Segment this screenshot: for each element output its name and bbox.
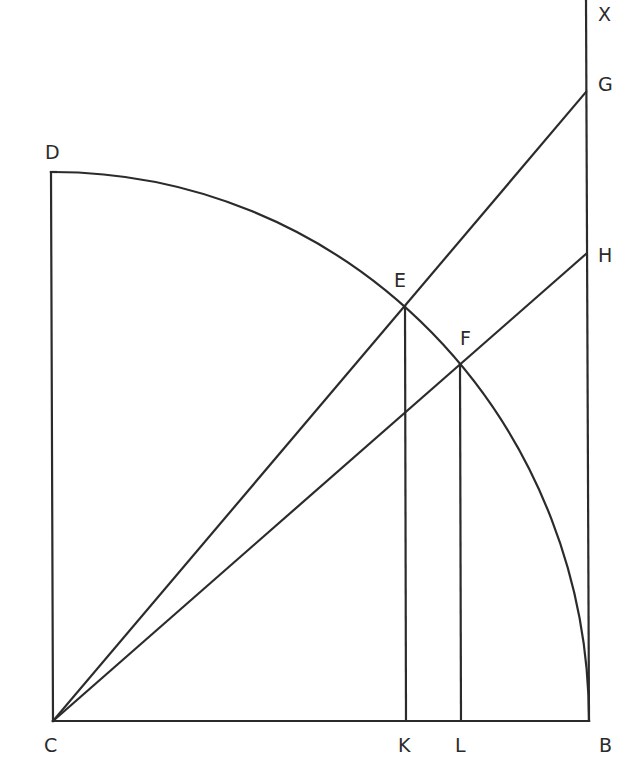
label-x: X	[598, 3, 611, 25]
segment-cg	[53, 92, 586, 721]
label-d: D	[45, 141, 60, 163]
arc-db	[51, 172, 589, 721]
segment-bx	[586, 0, 589, 721]
label-f: F	[460, 327, 471, 349]
label-b: B	[599, 734, 612, 756]
label-c: C	[44, 734, 57, 756]
segment-ch	[53, 254, 586, 721]
label-k: K	[398, 734, 411, 756]
segment-cd	[51, 172, 53, 721]
label-e: E	[394, 269, 406, 291]
segment-fl	[460, 364, 461, 721]
geometric-diagram: X G D H E F C K L B	[0, 0, 644, 776]
label-h: H	[598, 244, 612, 266]
label-g: G	[598, 73, 613, 95]
segment-ek	[405, 306, 406, 721]
label-l: L	[455, 734, 466, 756]
